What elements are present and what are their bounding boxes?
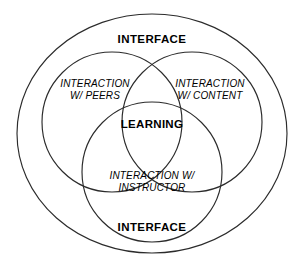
circle-interaction-with-instructor — [82, 102, 222, 242]
outer-interface-ellipse — [17, 14, 287, 253]
circle-interaction-with-content — [122, 52, 262, 192]
venn-diagram: INTERFACE INTERACTION W/ PEERS INTERACTI… — [0, 0, 303, 267]
venn-diagram-shapes — [0, 0, 303, 267]
circle-interaction-with-peers — [42, 52, 182, 192]
